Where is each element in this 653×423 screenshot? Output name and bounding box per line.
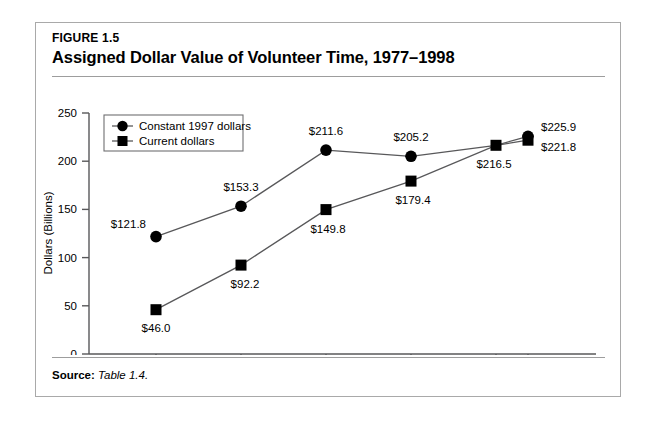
figure-container: FIGURE 1.5 Assigned Dollar Value of Volu… [35,22,621,397]
chart-svg: 0 50 100 150 200 250 Dollars (Billions) … [36,81,622,355]
header-divider [52,76,605,77]
y-tick-label-100: 100 [58,252,77,264]
chart-legend: Constant 1997 dollars Current dollars [104,115,251,151]
legend-label-constant-1997-dollars: Constant 1997 dollars [139,120,251,132]
point-label-current-1982: $92.2 [231,278,260,290]
legend-square-marker [118,136,128,146]
legend-label-current-dollars: Current dollars [139,135,215,147]
y-tick-label-250: 250 [58,107,77,119]
figure-header: FIGURE 1.5 Assigned Dollar Value of Volu… [52,31,608,68]
point-label-current-1997: $216.5 [476,158,511,170]
footer-divider [52,357,605,358]
source-line: Source: Table 1.4. [52,368,148,382]
legend-circle-marker [117,121,127,131]
figure-number: FIGURE 1.5 [52,31,608,46]
chart-plot-area: 0 50 100 150 200 250 Dollars (Billions) … [36,81,622,355]
point-label-constant-1977: $121.8 [111,218,146,230]
point-label-constant-1987: $211.6 [309,125,343,137]
point-label-current-1977: $46.0 [142,322,171,334]
source-reference: Table 1.4. [98,369,148,381]
point-label-current-1992: $179.4 [395,194,431,206]
y-tick-label-50: 50 [64,300,77,312]
point-label-constant-1982: $153.3 [223,181,258,193]
y-tick-label-200: 200 [58,155,77,167]
y-tick-label-150: 150 [58,203,77,215]
y-axis-title: Dollars (Billions) [42,191,54,274]
figure-title: Assigned Dollar Value of Volunteer Time,… [52,47,608,68]
point-label-constant-1992: $205.2 [393,131,428,143]
source-label: Source: [52,369,95,381]
point-label-current-1998: $221.8 [541,141,576,153]
point-label-current-1987: $149.8 [310,223,345,235]
y-tick-label-0: 0 [71,348,77,355]
point-label-constant-1998: $225.9 [541,121,576,133]
y-axis-ticks [82,113,89,354]
